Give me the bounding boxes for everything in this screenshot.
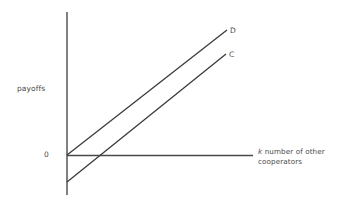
curve-d-line [67, 30, 227, 155]
x-axis-label-text: number of other cooperators [258, 147, 325, 166]
curve-c-label: C [229, 50, 234, 59]
plot-area [0, 0, 341, 207]
curve-d-label: D [230, 26, 236, 35]
x-axis-label: k number of other cooperators [258, 147, 338, 168]
payoffs-diagram: payoffs 0 D C k number of other cooperat… [0, 0, 341, 207]
curve-c-line [67, 54, 226, 182]
origin-label: 0 [44, 150, 49, 159]
y-axis-label: payoffs [17, 84, 45, 93]
